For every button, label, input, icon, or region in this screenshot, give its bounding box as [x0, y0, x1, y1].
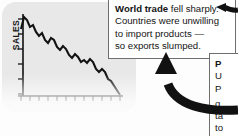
callout-line-1-rest: fell sharply.	[168, 3, 218, 14]
secondary-callout-clipped: P U P g ta to	[209, 53, 238, 136]
callout-line-4: so exports slumped.	[115, 40, 230, 52]
y-axis-label: SALES	[11, 13, 21, 57]
callout-line-2: Countries were unwilling	[115, 15, 230, 27]
side-box-line-1: P	[215, 58, 238, 70]
callout-line-1: World trade fell sharply.	[115, 3, 230, 15]
side-box-line-5: ta	[215, 110, 238, 122]
side-box-line-4: g	[215, 98, 238, 110]
callout-lead: World trade	[115, 3, 168, 14]
side-box-line-3: P	[215, 83, 238, 95]
side-box-line-6: to	[215, 122, 238, 134]
panel-fade-overlay	[0, 74, 140, 136]
world-trade-callout: World trade fell sharply. Countries were…	[108, 0, 236, 59]
side-box-line-2: U	[215, 70, 238, 82]
figure-root: SALES World trade fell sharply. Countrie…	[0, 0, 238, 136]
callout-line-3: to import products —	[115, 28, 230, 40]
